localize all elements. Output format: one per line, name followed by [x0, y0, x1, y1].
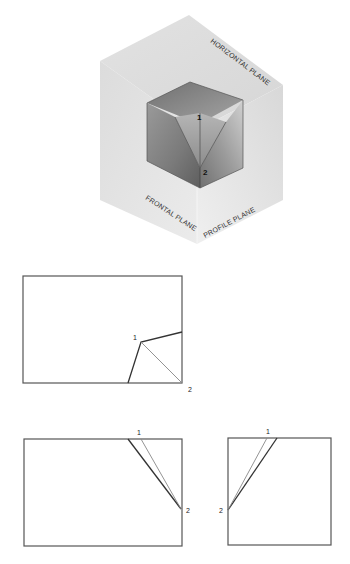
top-view: 1 2 — [24, 429, 190, 546]
side-view-outline — [228, 438, 331, 545]
top-view-point-1-label: 1 — [137, 429, 141, 436]
top-view-point-2-label: 2 — [186, 507, 190, 514]
isometric-box: 1 2 HORIZONTAL PLANE FRONTAL PLANE PROFI… — [100, 15, 283, 244]
top-view-outline — [24, 439, 182, 546]
iso-point-2-label: 2 — [203, 168, 208, 177]
side-view-point-2-label: 2 — [219, 507, 223, 514]
front-view-point-2-label: 2 — [188, 386, 192, 393]
side-view: 1 2 — [219, 428, 331, 545]
front-view-point-1-label: 1 — [133, 334, 137, 341]
side-view-point-1-label: 1 — [266, 428, 270, 435]
iso-point-1-label: 1 — [197, 113, 202, 122]
front-view-outline — [23, 276, 182, 383]
front-view: 1 2 — [23, 276, 192, 393]
figure-canvas: 1 2 HORIZONTAL PLANE FRONTAL PLANE PROFI… — [0, 0, 350, 564]
